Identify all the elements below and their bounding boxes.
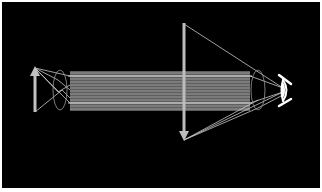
diagram-panel [2, 2, 320, 188]
objective-lens-icon [53, 70, 67, 110]
eye-icon [279, 75, 291, 106]
parallel-light-bundle [68, 71, 252, 111]
optics-diagram [2, 2, 320, 188]
object-arrow-icon [30, 66, 40, 112]
